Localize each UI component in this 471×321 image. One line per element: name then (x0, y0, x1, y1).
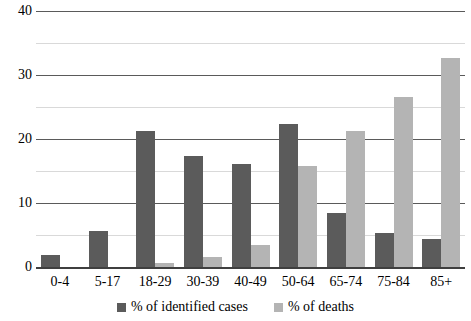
bar-group (36, 11, 84, 267)
x-tick-label: 75-84 (370, 272, 418, 294)
bar[interactable] (136, 131, 155, 267)
legend-swatch-deaths-icon (274, 303, 283, 312)
bar[interactable] (422, 239, 441, 267)
legend-label: % of deaths (288, 299, 354, 315)
bar[interactable] (155, 263, 174, 267)
bar[interactable] (327, 213, 346, 267)
y-tick-label: 20 (2, 132, 32, 146)
y-tick-label: 30 (2, 68, 32, 82)
bar[interactable] (279, 124, 298, 267)
bar[interactable] (394, 97, 413, 267)
bar-group (84, 11, 132, 267)
plot-area (36, 11, 465, 267)
bar-groups (36, 11, 465, 267)
bar-group (274, 11, 322, 267)
x-axis: 0-45-1718-2930-3940-4950-6465-7475-8485+ (36, 272, 465, 294)
x-tick-label: 85+ (417, 272, 465, 294)
bar[interactable] (232, 164, 251, 267)
x-tick-label: 40-49 (227, 272, 275, 294)
y-tick-label: 40 (2, 4, 32, 18)
bar-group (227, 11, 275, 267)
bar[interactable] (298, 166, 317, 267)
x-tick-label: 30-39 (179, 272, 227, 294)
legend-label: % of identified cases (131, 299, 248, 315)
bar-group (131, 11, 179, 267)
bar-group (179, 11, 227, 267)
y-tick-label: 0 (2, 260, 32, 274)
y-axis: 40 30 20 10 0 (0, 11, 32, 267)
chart-legend: % of identified cases % of deaths (0, 296, 471, 318)
bar[interactable] (184, 156, 203, 267)
bar-group (322, 11, 370, 267)
bar[interactable] (346, 131, 365, 267)
axis-baseline (36, 267, 465, 269)
bar[interactable] (41, 255, 60, 267)
bar[interactable] (203, 257, 222, 267)
bar[interactable] (441, 58, 460, 267)
bar-group (417, 11, 465, 267)
bar-group (370, 11, 418, 267)
legend-swatch-identified-cases-icon (117, 303, 126, 312)
legend-item-deaths[interactable]: % of deaths (274, 299, 354, 315)
x-tick-label: 5-17 (84, 272, 132, 294)
x-tick-label: 0-4 (36, 272, 84, 294)
x-tick-label: 65-74 (322, 272, 370, 294)
bar-chart: 40 30 20 10 0 0-45-1718-2930-3940-4950-6… (0, 0, 471, 321)
bar[interactable] (251, 245, 270, 267)
x-tick-label: 50-64 (274, 272, 322, 294)
legend-item-identified-cases[interactable]: % of identified cases (117, 299, 248, 315)
x-tick-label: 18-29 (131, 272, 179, 294)
y-tick-label: 10 (2, 196, 32, 210)
bar[interactable] (375, 233, 394, 267)
bar[interactable] (89, 231, 108, 267)
